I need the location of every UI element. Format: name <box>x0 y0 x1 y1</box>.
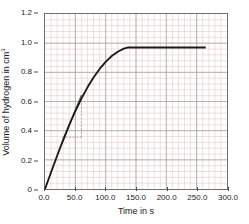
y-axis-tick-label: 0.2 <box>21 157 32 165</box>
y-axis-tick-label: 0.6 <box>21 98 32 106</box>
x-axis-tick-label: 250.0 <box>187 194 207 202</box>
x-axis-tick-mark <box>197 187 198 191</box>
chart-figure: Volume of hydrogen in cm3 00.20.40.60.81… <box>0 0 249 224</box>
y-axis-tick-mark <box>34 160 38 161</box>
x-axis-tick-label: 0.0 <box>38 194 49 202</box>
y-axis-tick-mark <box>34 13 38 14</box>
data-series-layer <box>45 14 227 189</box>
y-axis-tick-mark <box>34 190 38 191</box>
x-axis-tick-label: 200.0 <box>157 194 177 202</box>
x-axis-tick-label: 50.0 <box>67 194 83 202</box>
y-axis-tick-mark <box>34 131 38 132</box>
y-axis-tick-label: 1.2 <box>21 9 32 17</box>
x-axis-title: Time in s <box>44 206 228 216</box>
y-axis-tick-mark <box>34 72 38 73</box>
y-axis-tick-mark <box>34 101 38 102</box>
y-axis-tick-label: 0.4 <box>21 127 32 135</box>
y-axis-tick-labels: 00.20.40.60.81.01.2 <box>0 13 38 190</box>
x-axis-tick-mark <box>105 187 106 191</box>
y-axis-tick-mark <box>34 42 38 43</box>
data-curve <box>45 48 206 189</box>
x-axis-tick-mark <box>136 187 137 191</box>
x-axis-tick-mark <box>228 187 229 191</box>
x-axis-tick-mark <box>44 187 45 191</box>
x-axis-tick-mark <box>167 187 168 191</box>
x-axis-tick-mark <box>75 187 76 191</box>
plot-area <box>44 13 228 190</box>
y-axis-tick-label: 0 <box>28 186 32 194</box>
x-axis-tick-label: 300.0 <box>218 194 238 202</box>
x-axis-tick-label: 150.0 <box>126 194 146 202</box>
x-axis-tick-label: 100.0 <box>95 194 115 202</box>
y-axis-tick-label: 1.0 <box>21 39 32 47</box>
x-axis-tick-labels: 0.050.0100.0150.0200.0250.0300.0 <box>44 191 228 205</box>
y-axis-tick-label: 0.8 <box>21 68 32 76</box>
